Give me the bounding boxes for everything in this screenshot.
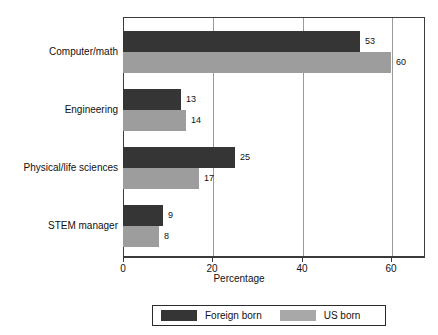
x-tick-40 <box>302 257 303 262</box>
legend-label-us-born: US born <box>324 310 361 321</box>
bar-us-engineering[interactable] <box>123 110 186 131</box>
legend-label-foreign-born: Foreign born <box>205 310 262 321</box>
bar-foreign-engineering[interactable] <box>123 89 181 110</box>
x-axis-line <box>123 257 425 258</box>
x-axis-title: Percentage <box>0 273 438 284</box>
bar-value-foreign-stem-manager: 9 <box>168 211 173 220</box>
category-label-computer-math: Computer/math <box>0 46 118 57</box>
bar-value-us-computer-math: 60 <box>396 58 406 67</box>
bar-value-foreign-computer-math: 53 <box>365 37 375 46</box>
bar-value-foreign-physical-life-sciences: 25 <box>240 153 250 162</box>
bar-value-foreign-engineering: 13 <box>186 95 196 104</box>
legend-swatch-us-born <box>280 310 316 321</box>
legend-item-us-born[interactable]: US born <box>280 306 361 325</box>
bar-chart: 53 60 13 14 25 17 9 8 Computer/math Engi… <box>0 0 438 335</box>
bar-foreign-stem-manager[interactable] <box>123 205 163 226</box>
category-label-engineering: Engineering <box>0 104 118 115</box>
x-tick-60 <box>391 257 392 262</box>
x-tick-0 <box>123 257 124 262</box>
bar-value-us-physical-life-sciences: 17 <box>204 174 214 183</box>
bar-us-physical-life-sciences[interactable] <box>123 168 199 189</box>
chart-legend: Foreign born US born <box>152 305 386 326</box>
bar-value-us-stem-manager: 8 <box>164 232 169 241</box>
bar-foreign-physical-life-sciences[interactable] <box>123 147 235 168</box>
legend-item-foreign-born[interactable]: Foreign born <box>161 306 262 325</box>
x-tick-20 <box>212 257 213 262</box>
legend-swatch-foreign-born <box>161 310 197 321</box>
category-label-physical-life-sciences: Physical/life sciences <box>0 162 118 173</box>
bar-us-computer-math[interactable] <box>123 52 391 73</box>
bar-value-us-engineering: 14 <box>191 116 201 125</box>
bar-foreign-computer-math[interactable] <box>123 31 360 52</box>
bars-layer: 53 60 13 14 25 17 9 8 <box>123 17 425 257</box>
bar-us-stem-manager[interactable] <box>123 226 159 247</box>
category-axis-labels: Computer/math Engineering Physical/life … <box>0 17 118 257</box>
category-label-stem-manager: STEM manager <box>0 220 118 231</box>
